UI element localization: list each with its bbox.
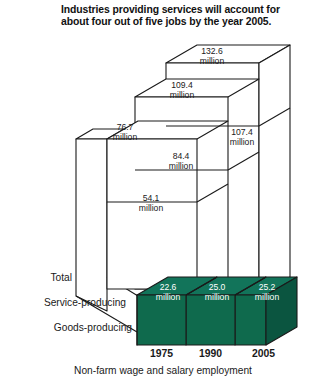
label-goods-1990-unit: million: [196, 293, 238, 303]
label-goods-2005: 25.2 million: [246, 283, 288, 302]
bar-2005-goods-front: [235, 295, 266, 345]
label-total-1975-unit: million: [99, 133, 151, 143]
label-total-1990: 109.4 million: [156, 81, 208, 100]
bar-2005-service-side: [259, 45, 290, 295]
label-total-2005-unit: million: [186, 57, 238, 67]
label-service-1990-unit: million: [155, 162, 207, 172]
label-service-1975-unit: million: [125, 204, 177, 214]
legend-column-front: [76, 139, 107, 311]
bar-1975-goods-front: [137, 295, 186, 345]
label-goods-2005-unit: million: [246, 293, 288, 303]
legend-label-goods-producing: Goods-producing: [0, 322, 132, 333]
label-goods-1975: 22.6 million: [147, 283, 189, 302]
year-label-2005: 2005: [239, 348, 288, 359]
label-total-1975: 76.7 million: [99, 123, 151, 142]
label-service-2005: 107.4 million: [216, 128, 268, 147]
chart-caption: Non-farm wage and salary employment: [0, 365, 326, 376]
legend-label-service-producing: Service-producing: [0, 297, 126, 308]
label-goods-1975-unit: million: [147, 293, 189, 303]
year-label-1990: 1990: [186, 348, 235, 359]
label-goods-1990: 25.0 million: [196, 283, 238, 302]
label-service-2005-unit: million: [216, 138, 268, 148]
year-label-1975: 1975: [137, 348, 186, 359]
label-total-2005: 132.6 million: [186, 47, 238, 66]
label-total-1990-unit: million: [156, 91, 208, 101]
chart-root: Industries providing services will accou…: [0, 0, 326, 387]
bar-1990-goods-front: [186, 295, 235, 345]
label-service-1990: 84.4 million: [155, 152, 207, 171]
label-service-1975: 54.1 million: [125, 194, 177, 213]
legend-label-total: Total: [0, 272, 72, 283]
